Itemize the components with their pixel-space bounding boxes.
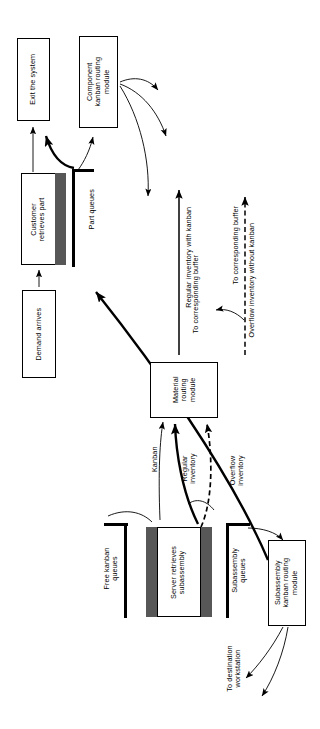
label-line-2: subassembly <box>178 550 187 594</box>
label-line-3: module <box>290 571 299 595</box>
label-line-1: Kanban <box>150 446 159 472</box>
label-line-2: inventory <box>188 453 197 483</box>
label-line-2: routing <box>179 378 188 401</box>
queue-subassembly-queues-label: Subassembly queues <box>231 539 248 601</box>
node-demand-arrives[interactable]: Demand arrives <box>22 290 56 378</box>
edge-label-kanban: Kanban <box>151 432 159 486</box>
node-server-retrieves-subassembly-label: Server retrieves subassembly <box>171 545 188 598</box>
label-line-1: Part queues <box>87 189 96 229</box>
label-line-2: queues <box>238 558 247 582</box>
node-component-kanban-routing-module[interactable]: Component kanban routing module <box>79 36 118 128</box>
node-material-routing-module[interactable]: Material routing module <box>150 362 218 418</box>
edge-free-kanban-queues-feed <box>108 512 152 522</box>
node-component-kanban-routing-module-label: Component kanban routing module <box>86 57 111 107</box>
queue-free-kanban-queues-stem <box>124 523 127 618</box>
label-line-2: queues <box>110 556 119 580</box>
queue-subassembly-queues-cap <box>226 523 250 526</box>
edge-label-regular-inventory: Regular inventory <box>181 438 198 498</box>
node-exit-the-system-label: Exit the system <box>29 54 37 105</box>
edge-label-to-corresponding-buffer-lower: To corresponding buffer <box>232 180 240 310</box>
queue-part-queues-stem <box>72 169 75 267</box>
label-line-2: inventory <box>236 455 245 485</box>
node-server-retrieves-subassembly[interactable]: Server retrieves subassembly <box>157 527 201 617</box>
queue-free-kanban-queues-label: Free kanban queues <box>103 537 120 599</box>
edge-label-to-destination-workstation: To destination workstation <box>226 633 243 703</box>
edge-component-module-out-2 <box>120 84 166 136</box>
edge-component-module-out-3 <box>120 86 148 196</box>
label-line-2: workstation <box>233 650 242 688</box>
label-line-1: Material <box>170 377 179 404</box>
node-material-routing-module-label: Material routing module <box>171 377 196 404</box>
flowchart-diagram: Exit the system Component kanban routing… <box>0 0 320 729</box>
label-line-3: module <box>102 70 111 94</box>
label-line-1: To corresponding buffer <box>231 206 240 285</box>
queue-part-queues-label: Part queues <box>88 179 96 239</box>
edge-subassembly-module-out-1 <box>246 627 283 678</box>
edge-to-corresponding-buffer-lower <box>216 309 244 320</box>
edge-subassembly-module-out-2 <box>262 627 288 696</box>
label-line-1: Component <box>85 63 94 101</box>
label-line-1: To corresponding buffer <box>191 255 200 334</box>
edge-subassembly-to-customer-retrieves-part <box>96 292 268 560</box>
server-retrieves-subassembly-shade-bar-right <box>201 527 212 617</box>
edge-label-overflow-inventory: Overflow inventory <box>229 440 246 500</box>
edge-kanban-to-material-module <box>159 422 163 520</box>
node-subassembly-kanban-routing-module-label: Subassembly kanban routing module <box>274 558 299 608</box>
label-line-3: module <box>187 378 196 402</box>
node-subassembly-kanban-routing-module[interactable]: Subassembly kanban routing module <box>268 540 306 626</box>
edge-label-to-corresponding-buffer-upper: To corresponding buffer <box>192 229 200 359</box>
node-exit-the-system[interactable]: Exit the system <box>17 38 50 121</box>
edge-partqueues-to-component-module <box>78 137 93 170</box>
customer-retrieves-part-shade-bar <box>55 173 66 265</box>
edge-component-module-out-1 <box>120 79 158 90</box>
node-demand-arrives-label: Demand arrives <box>35 308 43 361</box>
node-customer-retrieves-part-label: Customer retrieves part <box>30 197 47 241</box>
edge-label-overflow-inventory-without-kanban: Overflow inventory without kanban <box>248 191 256 369</box>
edge-partqueues-to-exit <box>46 136 74 168</box>
label-line-2: kanban routing <box>93 57 102 107</box>
label-line-2: retrieves part <box>37 197 46 241</box>
label-line-1: Overflow inventory without kanban <box>247 223 256 338</box>
server-retrieves-subassembly-shade-bar-left <box>146 527 157 617</box>
